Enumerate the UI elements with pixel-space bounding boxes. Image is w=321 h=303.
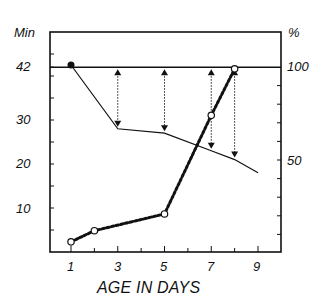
left-axis-unit-label: Min [14, 26, 35, 39]
arrow-down-head [231, 152, 238, 158]
x-tick-label-9: 9 [253, 260, 260, 273]
x-axis-title: AGE IN DAYS [97, 280, 200, 296]
plot-frame [50, 32, 281, 252]
arrow-down-head [208, 143, 215, 149]
open-circle-marker [231, 66, 237, 72]
start-marker [68, 62, 75, 69]
arrow-up-head [161, 69, 168, 75]
arrow-up-head [208, 69, 215, 75]
right-tick-label-50: 50 [287, 154, 301, 167]
arrow-down-head [161, 125, 168, 131]
left-tick-label-20: 20 [16, 157, 30, 170]
x-tick-label-7: 7 [207, 260, 214, 273]
open-circle-marker [208, 112, 214, 118]
chart-canvas [0, 0, 321, 303]
open-circle-marker [161, 211, 167, 217]
series-percent-line [68, 66, 238, 245]
x-tick-label-1: 1 [67, 260, 74, 273]
x-tick-label-3: 3 [114, 260, 121, 273]
percent-polyline [71, 69, 235, 242]
right-axis-unit-label: % [288, 26, 300, 39]
difference-arrows [114, 69, 238, 157]
right-tick-label-100: 100 [287, 60, 309, 73]
x-tick-label-5: 5 [160, 260, 167, 273]
plot-border [50, 32, 281, 252]
open-circle-marker [91, 227, 97, 233]
open-circle-marker [68, 239, 74, 245]
left-tick-label-42: 42 [16, 60, 30, 73]
left-tick-label-10: 10 [16, 202, 30, 215]
arrow-up-head [114, 69, 121, 75]
left-tick-label-30: 30 [16, 113, 30, 126]
